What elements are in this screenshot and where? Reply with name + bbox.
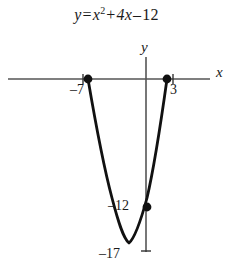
label-root-right: 3 xyxy=(170,83,177,97)
point-y-intercept xyxy=(143,203,152,212)
parabola-figure: y=x2+4x–12 x y –7 3 –12 –17 xyxy=(0,0,233,264)
parabola-curve xyxy=(88,79,167,243)
label-root-left: –7 xyxy=(70,83,84,97)
x-axis-label: x xyxy=(216,65,223,80)
label-y-intercept: –12 xyxy=(108,199,129,213)
parabola-plot xyxy=(0,0,233,264)
point-root-left xyxy=(84,75,93,84)
label-vertex-minimum: –17 xyxy=(99,247,120,261)
y-axis-label: y xyxy=(141,40,148,55)
